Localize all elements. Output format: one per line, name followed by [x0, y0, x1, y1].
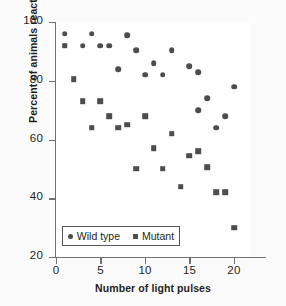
data-point-mutant — [213, 190, 219, 196]
data-point-mutant — [124, 122, 130, 128]
y-axis-line — [55, 22, 56, 258]
data-point-wild-type — [222, 113, 228, 119]
y-axis-title: Percent of animals reacting — [27, 0, 39, 148]
data-point-mutant — [71, 76, 77, 82]
x-tick-label: 10 — [138, 264, 151, 276]
data-point-mutant — [160, 166, 166, 172]
data-point-wild-type — [107, 43, 113, 49]
data-point-wild-type — [80, 43, 86, 49]
data-point-mutant — [115, 125, 121, 131]
square-marker-icon — [133, 234, 138, 239]
legend-label-mutant: Mutant — [142, 230, 174, 242]
data-point-mutant — [107, 113, 113, 119]
data-point-wild-type — [62, 31, 68, 37]
circle-marker-icon — [68, 234, 73, 239]
data-point-wild-type — [98, 43, 104, 49]
data-point-wild-type — [204, 96, 210, 102]
chart-legend: Wild type Mutant — [62, 226, 180, 246]
data-point-mutant — [151, 146, 157, 152]
data-point-wild-type — [151, 60, 157, 66]
data-point-wild-type — [196, 69, 202, 75]
x-tick-label: 20 — [227, 264, 240, 276]
data-point-wild-type — [231, 84, 237, 90]
data-point-mutant — [98, 99, 104, 105]
y-tick-mark — [49, 257, 55, 258]
data-point-mutant — [196, 148, 202, 154]
y-tick-mark — [49, 81, 55, 82]
y-tick-mark — [49, 198, 55, 199]
data-point-wild-type — [115, 66, 121, 72]
data-point-wild-type — [160, 72, 166, 78]
y-tick-mark — [49, 22, 55, 23]
data-point-mutant — [169, 131, 175, 137]
data-point-mutant — [133, 166, 139, 172]
data-point-mutant — [178, 184, 184, 190]
data-point-mutant — [62, 43, 68, 49]
x-tick-label: 0 — [53, 264, 60, 276]
plot-area — [56, 22, 250, 257]
legend-label-wild-type: Wild type — [77, 230, 120, 242]
data-point-wild-type — [187, 63, 193, 69]
data-point-mutant — [231, 225, 237, 231]
x-tick-label: 5 — [97, 264, 104, 276]
data-point-mutant — [222, 190, 228, 196]
x-tick-label: 15 — [183, 264, 196, 276]
x-axis-title: Number of light pulses — [56, 282, 250, 294]
legend-entry-mutant: Mutant — [133, 230, 174, 242]
data-point-wild-type — [133, 47, 139, 53]
data-point-wild-type — [124, 32, 130, 38]
legend-entry-wild-type: Wild type — [68, 230, 120, 242]
data-point-mutant — [204, 165, 210, 171]
data-point-mutant — [142, 113, 148, 119]
data-point-mutant — [89, 125, 95, 131]
data-point-mutant — [80, 99, 86, 105]
y-tick-label: 40 — [30, 190, 43, 202]
y-tick-mark — [49, 140, 55, 141]
data-point-mutant — [187, 153, 193, 159]
data-point-wild-type — [89, 31, 95, 37]
plot-frame — [56, 22, 250, 257]
y-tick-label: 20 — [30, 249, 43, 261]
data-point-wild-type — [213, 125, 219, 131]
data-point-wild-type — [196, 107, 202, 113]
data-point-wild-type — [142, 72, 148, 78]
scatter-chart-figure: 2040608010005101520 Percent of animals r… — [0, 0, 286, 306]
data-point-wild-type — [169, 47, 175, 53]
